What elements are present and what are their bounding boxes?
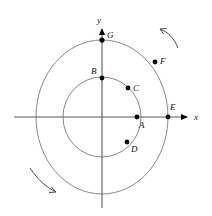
y-axis-label: y [96, 15, 101, 25]
point-label-A: A [138, 120, 145, 130]
point-marker-A [135, 115, 140, 120]
point-marker-D [125, 140, 130, 145]
point-marker-G [99, 37, 104, 42]
y-axis-arrowhead [99, 28, 105, 35]
point-label-E: E [169, 102, 176, 112]
point-label-C: C [133, 83, 140, 93]
point-marker-C [126, 86, 131, 91]
points-group: A B C D E F G [91, 30, 176, 154]
figure-canvas: x y A B C D E F G [0, 0, 212, 216]
point-label-D: D [130, 144, 138, 154]
x-axis-arrowhead [181, 114, 188, 120]
x-axis-label: x [193, 112, 198, 122]
point-marker-E [166, 115, 171, 120]
point-marker-F [153, 60, 158, 65]
concentric-circles-diagram: x y A B C D E F G [0, 0, 212, 216]
rotation-arrow-top-right [160, 29, 178, 48]
point-label-F: F [159, 56, 166, 66]
point-marker-B [100, 76, 105, 81]
point-label-B: B [91, 66, 97, 76]
point-label-G: G [107, 30, 114, 40]
